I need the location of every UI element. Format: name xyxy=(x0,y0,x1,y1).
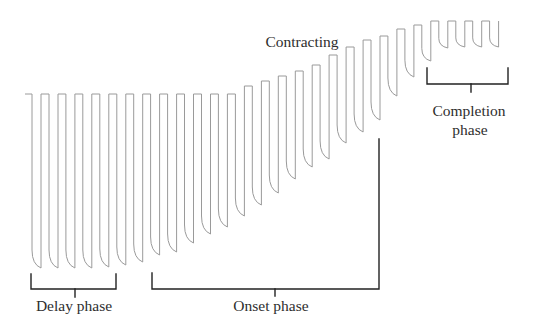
delay-phase-bracket xyxy=(31,274,116,297)
completion-bracket-line xyxy=(427,68,508,84)
onset-phase-bracket xyxy=(152,139,379,296)
delay-bracket-line xyxy=(31,274,116,289)
onset-bracket-line xyxy=(152,139,379,289)
delay-phase-label: Delay phase xyxy=(36,297,112,314)
completion-phase-label-line1: Completion xyxy=(432,102,505,119)
muscle-contraction-diagram: Contracting Delay phase Onset phase Comp… xyxy=(0,0,538,332)
completion-phase-bracket xyxy=(427,68,508,92)
pulse-trace xyxy=(25,21,499,268)
onset-phase-label: Onset phase xyxy=(233,297,308,314)
completion-phase-label-line2: phase xyxy=(452,121,487,138)
contracting-label: Contracting xyxy=(265,33,338,50)
